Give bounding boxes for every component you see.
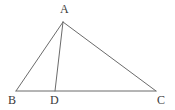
triangle-edges [16,22,156,91]
vertex-label-d: D [50,94,59,106]
vertex-label-c: C [157,94,165,106]
vertex-label-a: A [60,3,69,15]
segment-ac [63,22,156,91]
vertex-label-b: B [8,94,16,106]
triangle-diagram-canvas [0,0,175,110]
geometry-figure: A B D C [0,0,175,110]
